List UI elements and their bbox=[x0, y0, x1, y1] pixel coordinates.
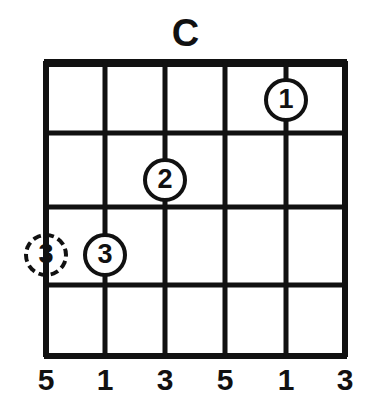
string-degree-label-1: 3 bbox=[325, 365, 365, 395]
finger-marker-1[interactable]: 1 bbox=[264, 78, 308, 122]
string-degree-label-2: 1 bbox=[266, 365, 306, 395]
string-degree-label-5: 1 bbox=[85, 365, 125, 395]
string-degree-label-4: 3 bbox=[145, 365, 185, 395]
string-degree-label-3: 5 bbox=[205, 365, 245, 395]
finger-marker-label: 3 bbox=[38, 241, 53, 268]
finger-marker-label: 1 bbox=[278, 86, 293, 113]
finger-marker-label: 3 bbox=[97, 241, 112, 268]
nut-bar bbox=[44, 59, 347, 67]
fretboard-svg bbox=[0, 0, 371, 411]
finger-marker-optional-3[interactable]: 3 bbox=[24, 233, 68, 277]
string-degree-label-6: 5 bbox=[26, 365, 66, 395]
finger-marker-3[interactable]: 3 bbox=[83, 233, 127, 277]
finger-marker-label: 2 bbox=[157, 166, 172, 193]
finger-marker-2[interactable]: 2 bbox=[143, 158, 187, 202]
chord-diagram: C 1 2 3 3 5 1 3 5 1 bbox=[0, 0, 371, 411]
fretboard bbox=[0, 0, 371, 411]
